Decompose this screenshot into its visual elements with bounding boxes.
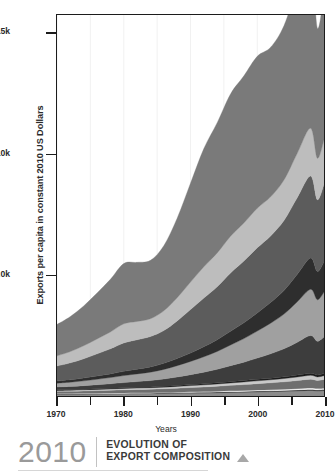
- x-axis-tick-mark: [258, 397, 260, 406]
- y-axis-tick-label: 10k: [0, 148, 10, 158]
- x-axis-title: Years: [0, 424, 332, 434]
- figure-caption: 2010 EVOLUTION OF EXPORT COMPOSITION: [18, 437, 249, 467]
- caption-title-line1: EVOLUTION OF: [106, 439, 249, 451]
- x-axis-tick-mark: [191, 397, 193, 406]
- y-axis-tick-label: 5.0k: [0, 269, 10, 279]
- x-axis-tick-mark: [291, 397, 293, 405]
- x-axis-tick-label: 1990: [181, 409, 200, 419]
- caption-title-line2: EXPORT COMPOSITION: [106, 451, 230, 463]
- y-axis-tick-label: 15k: [0, 26, 10, 36]
- triangle-up-icon: [237, 454, 249, 462]
- caption-year: 2010: [18, 437, 96, 467]
- x-axis-tick-mark: [224, 397, 226, 405]
- x-axis-tick-label: 2010: [315, 409, 334, 419]
- x-axis-tick-mark: [56, 397, 58, 406]
- stacked-area-chart: [57, 15, 324, 396]
- x-axis-tick-label: 1980: [114, 409, 133, 419]
- caption-divider: [96, 437, 97, 467]
- x-axis-tick-label: 1970: [46, 409, 65, 419]
- x-axis-tick-mark: [325, 397, 327, 406]
- y-axis-title: Exports per capita in constant 2010 US D…: [35, 75, 45, 335]
- x-axis-tick-mark: [157, 397, 159, 405]
- caption-underline: [18, 470, 208, 471]
- x-axis-tick-mark: [123, 397, 125, 406]
- caption-title: EVOLUTION OF EXPORT COMPOSITION: [106, 437, 249, 464]
- plot-area: [56, 14, 325, 397]
- x-axis-tick-label: 2000: [248, 409, 267, 419]
- x-axis-tick-mark: [90, 397, 92, 405]
